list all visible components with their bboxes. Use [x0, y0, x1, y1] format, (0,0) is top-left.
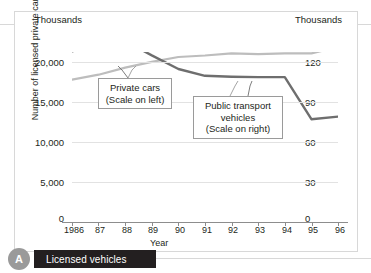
y-tick-left-15000: 15,000 — [18, 97, 64, 108]
callout-public-line3: (Scale on right) — [198, 123, 278, 135]
callout-private-line1: Private cars — [103, 82, 167, 94]
frame-rule-right — [357, 24, 371, 25]
y-tick-left-20000: 20,000 — [18, 57, 64, 68]
unit-label-right: Thousands — [295, 14, 342, 25]
y-tick-left-0: 0 — [18, 213, 64, 224]
chart-figure: Thousands Thousands Number of licensed p… — [0, 0, 371, 273]
x-label-96: 96 — [323, 225, 357, 235]
gridline-top — [72, 62, 338, 63]
gridline-4 — [72, 182, 338, 183]
callout-public-transport: Public transport vehicles (Scale on righ… — [193, 96, 283, 139]
callout-private-line2: (Scale on left) — [103, 94, 167, 106]
unit-label-left: Thousands — [35, 14, 82, 25]
frame-rule-left — [0, 24, 15, 25]
y-axis-title-left: Number of licensed private cars — [30, 0, 40, 147]
caption-badge: A — [8, 248, 30, 270]
callout-public-line1: Public transport — [198, 100, 278, 112]
callout-private-cars: Private cars (Scale on left) — [98, 78, 172, 109]
gridline-3 — [72, 142, 338, 143]
frame-rule-bottom — [150, 258, 371, 259]
x-axis-title: Year — [150, 238, 168, 248]
caption-label: Licensed vehicles — [46, 254, 127, 265]
y-tick-left-5000: 5,000 — [18, 177, 64, 188]
y-tick-left-10000: 10,000 — [18, 137, 64, 148]
callout-public-line2: vehicles — [198, 112, 278, 124]
